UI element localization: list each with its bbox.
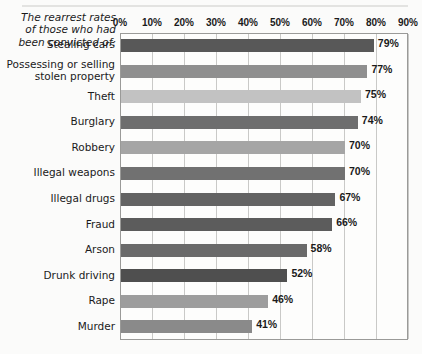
x-axis-tick-label: 10% — [142, 17, 162, 28]
category-label: Robbery — [0, 142, 115, 154]
caption-line: The rearrest rates — [6, 11, 116, 23]
bar — [121, 141, 345, 154]
category-label-line: Arson — [0, 244, 115, 256]
bar-value-label: 77% — [371, 63, 392, 75]
category-axis-labels: Stealing carsPossessing or sellingstolen… — [0, 33, 115, 340]
plot-area: 79%77%75%74%70%70%67%66%58%52%46%41% — [120, 33, 408, 340]
bar-row: 52% — [121, 264, 407, 290]
category-label: Drunk driving — [0, 270, 115, 282]
bar-row: 58% — [121, 239, 407, 265]
x-axis-tick-label: 20% — [174, 17, 194, 28]
bar — [121, 295, 268, 308]
bar-value-label: 67% — [339, 191, 360, 203]
bar-value-label: 52% — [291, 267, 312, 279]
category-label-line: Illegal weapons — [0, 167, 115, 179]
top-divider — [22, 5, 408, 7]
x-axis-tick-label: 0% — [113, 17, 127, 28]
bar — [121, 65, 367, 78]
bar — [121, 39, 374, 52]
category-label: Rape — [0, 295, 115, 307]
bar — [121, 167, 345, 180]
category-label: Burglary — [0, 116, 115, 128]
category-label: Possessing or sellingstolen property — [0, 59, 115, 82]
category-label: Illegal weapons — [0, 167, 115, 179]
bar-chart: The rearrest ratesof those who hadbeen c… — [0, 0, 422, 354]
bar — [121, 269, 287, 282]
bar — [121, 90, 361, 103]
bar-value-label: 66% — [336, 216, 357, 228]
category-label-line: Fraud — [0, 219, 115, 231]
category-label: Illegal drugs — [0, 193, 115, 205]
category-label-line: Robbery — [0, 142, 115, 154]
category-label-line: Murder — [0, 321, 115, 333]
category-label: Murder — [0, 321, 115, 333]
bar-row: 67% — [121, 188, 407, 214]
x-axis-tick-label: 70% — [334, 17, 354, 28]
category-label-line: stolen property — [0, 71, 115, 83]
category-label-line: Drunk driving — [0, 270, 115, 282]
category-label-line: Stealing cars — [0, 39, 115, 51]
bar — [121, 116, 358, 129]
bar-value-label: 79% — [378, 37, 399, 49]
category-label: Arson — [0, 244, 115, 256]
bar-row: 77% — [121, 60, 407, 86]
bar-value-label: 58% — [311, 242, 332, 254]
bar — [121, 218, 332, 231]
x-axis-tick-label: 80% — [366, 17, 386, 28]
bar-row: 66% — [121, 213, 407, 239]
category-label-line: Illegal drugs — [0, 193, 115, 205]
bar-row: 74% — [121, 111, 407, 137]
bar-value-label: 74% — [362, 114, 383, 126]
bar — [121, 320, 252, 333]
x-axis: 0%10%20%30%40%50%60%70%80%90% — [120, 17, 408, 31]
bar-row: 70% — [121, 136, 407, 162]
bar-row: 79% — [121, 34, 407, 60]
bar-row: 46% — [121, 290, 407, 316]
bar-value-label: 41% — [256, 318, 277, 330]
category-label-line: Burglary — [0, 116, 115, 128]
x-axis-tick-label: 60% — [302, 17, 322, 28]
bar — [121, 193, 335, 206]
x-axis-tick-label: 30% — [206, 17, 226, 28]
bar-row: 70% — [121, 162, 407, 188]
bar-value-label: 70% — [349, 165, 370, 177]
bar-value-label: 75% — [365, 88, 386, 100]
bar-value-label: 46% — [272, 293, 293, 305]
category-label: Stealing cars — [0, 39, 115, 51]
x-axis-tick-label: 50% — [270, 17, 290, 28]
bar — [121, 244, 307, 257]
gridline — [408, 34, 409, 339]
category-label-line: Theft — [0, 91, 115, 103]
category-label-line: Rape — [0, 295, 115, 307]
category-label: Theft — [0, 91, 115, 103]
bar-row: 75% — [121, 85, 407, 111]
bar-row: 41% — [121, 315, 407, 341]
bar-rows: 79%77%75%74%70%70%67%66%58%52%46%41% — [121, 34, 407, 339]
bar-value-label: 70% — [349, 139, 370, 151]
x-axis-tick-label: 40% — [238, 17, 258, 28]
category-label: Fraud — [0, 219, 115, 231]
x-axis-tick-label: 90% — [398, 17, 418, 28]
